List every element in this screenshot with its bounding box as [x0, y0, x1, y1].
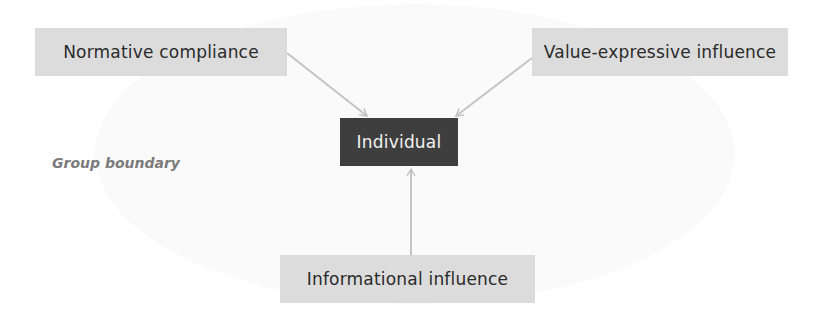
individual-label: Individual: [357, 132, 442, 152]
arrow-normative-to-individual: [287, 53, 367, 116]
group-boundary-label: Group boundary: [52, 155, 180, 171]
value-expressive-influence-label: Value-expressive influence: [544, 42, 776, 62]
informational-influence-label: Informational influence: [307, 269, 509, 289]
normative-compliance-label: Normative compliance: [63, 42, 259, 62]
arrow-value-expressive-to-individual: [456, 58, 532, 116]
informational-influence-node: Informational influence: [280, 255, 535, 303]
normative-compliance-node: Normative compliance: [35, 28, 287, 76]
individual-node: Individual: [340, 118, 458, 166]
value-expressive-influence-node: Value-expressive influence: [532, 28, 788, 76]
